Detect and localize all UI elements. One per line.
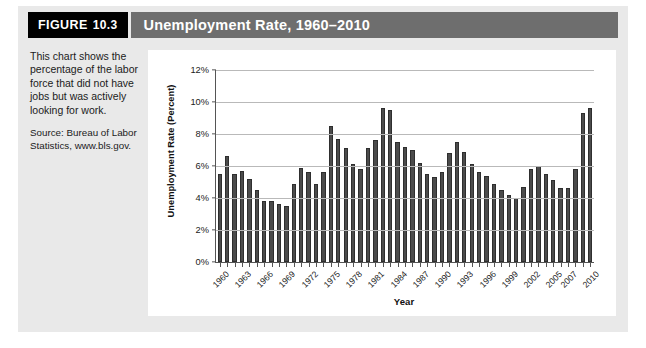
- x-axis-tick-mark: [398, 262, 399, 267]
- bar: [447, 153, 451, 262]
- x-axis-tick-mark: [524, 262, 525, 267]
- x-axis-tick-mark: [375, 262, 376, 267]
- figure-badge-number: 10.3: [93, 18, 118, 32]
- bar: [321, 172, 325, 262]
- plot-area: 1960196319661969197219751978198119841987…: [215, 70, 594, 263]
- x-axis-tick-label: 1972: [291, 269, 319, 297]
- figure-badge-label: FIGURE: [38, 18, 88, 32]
- bar: [314, 184, 318, 262]
- x-axis-tick-mark: [361, 262, 362, 267]
- bar: [470, 164, 474, 262]
- bar: [218, 174, 222, 262]
- bar: [558, 188, 562, 262]
- x-axis-tick-mark: [546, 262, 547, 267]
- bar: [299, 168, 303, 262]
- bar: [581, 113, 585, 262]
- bar: [255, 190, 259, 262]
- bar: [536, 166, 540, 262]
- bar: [262, 201, 266, 262]
- bar: [455, 142, 459, 262]
- x-axis-tick-mark: [338, 262, 339, 267]
- x-axis-tick-mark: [568, 262, 569, 267]
- bar: [247, 179, 251, 262]
- x-axis-tick-mark: [242, 262, 243, 267]
- gridline: [216, 230, 594, 231]
- x-axis-tick-mark: [472, 262, 473, 267]
- y-axis-tick-mark: [212, 165, 216, 166]
- caption-source: Source: Bureau of Labor Statistics, www.…: [30, 126, 138, 152]
- x-axis-tick-mark: [590, 262, 591, 267]
- figure-caption: This chart shows the percentage of the l…: [30, 50, 138, 161]
- bar: [588, 108, 592, 262]
- bar: [240, 171, 244, 262]
- bar: [277, 204, 281, 262]
- gridline: [216, 198, 594, 199]
- y-axis-title: Unemployment Rate (Percent): [166, 81, 176, 221]
- bar: [566, 188, 570, 262]
- bar: [462, 152, 466, 262]
- x-axis-title: Year: [215, 296, 593, 307]
- bar: [425, 174, 429, 262]
- gridline: [216, 134, 594, 135]
- bar: [529, 169, 533, 262]
- x-axis-tick-mark: [346, 262, 347, 267]
- bar: [492, 184, 496, 262]
- x-axis-tick-mark: [331, 262, 332, 267]
- x-axis-tick-mark: [412, 262, 413, 267]
- x-axis-tick-label: 1996: [469, 269, 497, 297]
- x-axis-tick-label: 1960: [203, 269, 231, 297]
- x-axis-tick-mark: [487, 262, 488, 267]
- bar: [284, 206, 288, 262]
- y-axis-tick-mark: [212, 261, 216, 262]
- x-axis-tick-mark: [420, 262, 421, 267]
- x-axis-tick-mark: [249, 262, 250, 267]
- y-axis-tick-label: 8%: [196, 129, 209, 139]
- x-axis-tick-mark: [286, 262, 287, 267]
- bar: [573, 169, 577, 262]
- bar: [358, 169, 362, 262]
- x-axis-tick-mark: [553, 262, 554, 267]
- y-axis-tick-mark: [212, 133, 216, 134]
- bar: [306, 172, 310, 262]
- bar: [477, 172, 481, 262]
- x-axis-tick-mark: [272, 262, 273, 267]
- bar: [232, 174, 236, 262]
- gridline: [216, 102, 594, 103]
- y-axis-tick-mark: [212, 69, 216, 70]
- x-axis-tick-label: 1969: [269, 269, 297, 297]
- chart-panel: Unemployment Rate (Percent) 196019631966…: [148, 50, 616, 316]
- x-axis-tick-mark: [227, 262, 228, 267]
- bar: [484, 176, 488, 262]
- x-axis-tick-mark: [264, 262, 265, 267]
- x-axis-tick-mark: [583, 262, 584, 267]
- x-axis-tick-mark: [427, 262, 428, 267]
- x-axis-tick-mark: [509, 262, 510, 267]
- bar: [225, 156, 229, 262]
- y-axis-tick-label: 0%: [196, 257, 209, 267]
- y-axis-tick-mark: [212, 101, 216, 102]
- x-axis-tick-mark: [383, 262, 384, 267]
- bar: [432, 177, 436, 262]
- x-axis-tick-mark: [442, 262, 443, 267]
- x-axis-tick-label: 1984: [380, 269, 408, 297]
- bar: [544, 174, 548, 262]
- gridline: [216, 70, 594, 71]
- figure-container: FIGURE 10.3 Unemployment Rate, 1960–2010…: [18, 6, 628, 332]
- bar: [551, 180, 555, 262]
- x-axis-tick-mark: [501, 262, 502, 267]
- bar: [381, 108, 385, 262]
- y-axis-tick-label: 12%: [190, 65, 209, 75]
- figure-badge: FIGURE 10.3: [28, 12, 128, 38]
- bar: [395, 142, 399, 262]
- x-axis-tick-mark: [464, 262, 465, 267]
- x-axis-ticks: 1960196319661969197219751978198119841987…: [216, 262, 594, 268]
- x-axis-tick-mark: [220, 262, 221, 267]
- x-axis-tick-label: 2010: [573, 269, 601, 297]
- x-axis-tick-mark: [257, 262, 258, 267]
- bar: [388, 110, 392, 262]
- bar: [440, 172, 444, 262]
- x-axis-tick-mark: [561, 262, 562, 267]
- x-axis-tick-mark: [575, 262, 576, 267]
- x-axis-tick-label: 1993: [447, 269, 475, 297]
- gridline: [216, 166, 594, 167]
